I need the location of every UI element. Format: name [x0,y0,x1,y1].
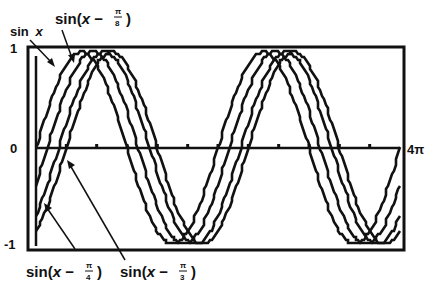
svg-text:sin(x −: sin(x − [55,10,103,27]
arrow-line [62,30,72,58]
svg-text:sin(x −: sin(x − [120,263,168,280]
annotation-text: sin [10,24,29,39]
arrow-line [30,40,52,63]
x-tick [95,144,98,148]
fraction-den: 8 [115,19,120,28]
svg-text:): ) [97,263,102,280]
svg-text:sin(x −: sin(x − [26,263,74,280]
x-tick [186,144,189,148]
svg-text:): ) [126,10,131,27]
arrow-line [47,208,75,249]
x-tick [277,144,280,148]
fraction-num: π [86,261,92,270]
fraction-den: 4 [86,273,91,282]
arrow-head-icon [67,160,75,169]
fraction-den: 3 [180,273,185,282]
x-tick-label-4pi: 4π [407,142,424,157]
y-tick-label-1: 1 [10,41,17,56]
svg-text:): ) [191,263,196,280]
y-tick-label-0: 0 [10,141,17,156]
sine-phase-shift-chart: 1 0 -1 4π sin x sin(x − π 8 ) sin(x − π … [0,0,431,288]
svg-text:sin x: sin x [10,24,43,39]
y-tick-label-neg1: -1 [4,237,16,252]
fraction-num: π [180,261,186,270]
fraction-num: π [115,7,121,16]
annotation-var: x [34,24,43,39]
x-tick [368,144,371,148]
arrow-line [70,165,125,260]
